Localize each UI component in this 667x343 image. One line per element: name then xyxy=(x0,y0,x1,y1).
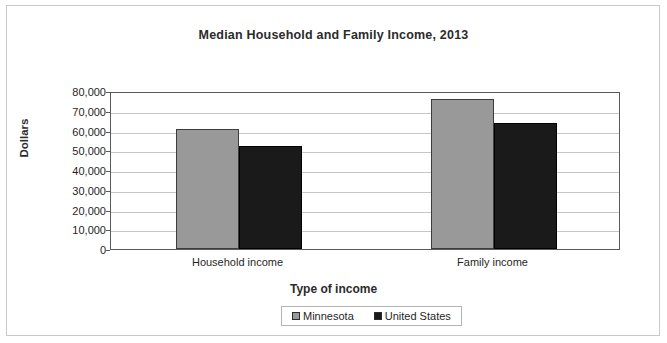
gridline xyxy=(111,113,619,114)
x-axis-category-label: Household income xyxy=(110,256,365,268)
y-axis-tick-label: 30,000 xyxy=(44,185,106,197)
plot-area xyxy=(110,92,620,250)
y-axis-tick-mark xyxy=(106,250,110,251)
y-axis-tick-label: 60,000 xyxy=(44,126,106,138)
y-axis-tick-label: 10,000 xyxy=(44,224,106,236)
y-axis-tick-labels: 010,00020,00030,00040,00050,00060,00070,… xyxy=(40,92,106,250)
chart-title: Median Household and Family Income, 2013 xyxy=(0,28,667,42)
gray-square-icon xyxy=(292,312,300,320)
bar xyxy=(176,129,239,249)
legend-item: United States xyxy=(374,310,451,322)
y-axis-tick-label: 50,000 xyxy=(44,145,106,157)
legend-item: Minnesota xyxy=(292,310,354,322)
x-axis-category-label: Family income xyxy=(365,256,620,268)
black-square-icon xyxy=(374,312,382,320)
x-axis-title: Type of income xyxy=(0,282,667,296)
bar xyxy=(239,146,302,249)
y-axis-tick-label: 20,000 xyxy=(44,205,106,217)
chart-figure: Median Household and Family Income, 2013… xyxy=(0,0,667,343)
legend-item-label: United States xyxy=(385,310,451,322)
bar xyxy=(494,123,557,249)
y-axis-tick-label: 40,000 xyxy=(44,165,106,177)
y-axis-tick-label: 80,000 xyxy=(44,86,106,98)
chart-legend: MinnesotaUnited States xyxy=(281,306,462,326)
y-axis-title: Dollars xyxy=(18,98,30,178)
y-axis-tick-label: 70,000 xyxy=(44,106,106,118)
y-axis-tick-label: 0 xyxy=(44,244,106,256)
legend-item-label: Minnesota xyxy=(303,310,354,322)
bar xyxy=(431,99,494,249)
